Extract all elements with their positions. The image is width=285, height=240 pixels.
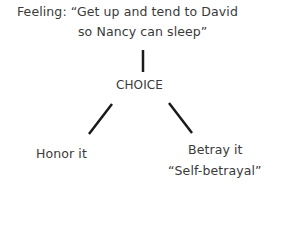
self-betrayal-sublabel: “Self-betrayal” xyxy=(168,163,262,178)
choice-to-honor-line xyxy=(89,104,112,134)
honor-branch-label: Honor it xyxy=(36,146,87,161)
choice-node: CHOICE xyxy=(116,78,163,93)
choice-to-betray-line xyxy=(169,103,192,133)
betray-branch-label: Betray it xyxy=(188,142,243,157)
